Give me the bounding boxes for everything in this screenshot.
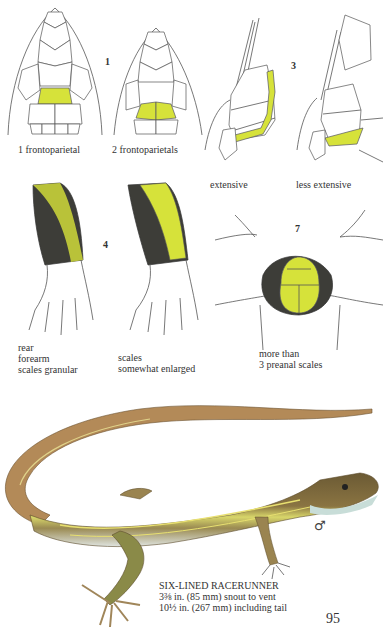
caption-scales-somewhat-enlarged: scales somewhat enlarged — [118, 352, 195, 374]
figure-number-3: 3 — [291, 60, 296, 71]
species-name: SIX-LINED RACERUNNER — [159, 580, 287, 591]
caption-extensive: extensive — [210, 179, 248, 190]
species-size-snout-vent: 3⅜ in. (85 mm) snout to vent — [159, 591, 287, 602]
forearm-diagram-granular — [15, 180, 105, 340]
forearm-diagram-enlarged — [118, 180, 208, 340]
caption-less-extensive: less extensive — [296, 179, 351, 190]
side-head-diagram-extensive — [205, 10, 285, 170]
side-head-diagram-less-extensive — [295, 10, 383, 170]
figure-number-4: 4 — [103, 239, 108, 250]
caption-one-frontoparietal: 1 frontoparietal — [18, 144, 80, 155]
page-number: 95 — [326, 611, 340, 627]
caption-rear-forearm-granular: rear forearm scales granular — [18, 342, 78, 375]
head-diagram-one-frontoparietal — [0, 0, 110, 140]
male-symbol: ♂ — [314, 518, 326, 533]
head-diagram-two-frontoparietals — [108, 0, 208, 140]
figure-number-1: 1 — [105, 56, 110, 67]
species-size-total: 10½ in. (267 mm) including tail — [159, 602, 287, 613]
figure-number-7: 7 — [295, 223, 300, 234]
caption-more-than-3-preanal-scales: more than 3 preanal scales — [259, 348, 322, 370]
caption-two-frontoparietals: 2 frontoparietals — [112, 144, 178, 155]
species-caption: SIX-LINED RACERUNNER 3⅜ in. (85 mm) snou… — [159, 580, 287, 613]
